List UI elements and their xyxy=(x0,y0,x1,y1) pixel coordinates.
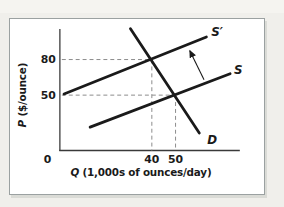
demand-curve-label: D xyxy=(207,133,217,147)
y-tick-50: 50 xyxy=(41,89,57,102)
page-top-strip xyxy=(0,0,284,13)
x-axis-label: Q (1,000s of ounces/day) xyxy=(70,166,211,178)
x-tick-40: 40 xyxy=(144,153,160,166)
origin-tick: 0 xyxy=(44,153,52,166)
y-tick-80: 80 xyxy=(41,53,57,66)
curve-supply xyxy=(90,74,230,127)
shifted-supply-curve-label: S′ xyxy=(211,25,224,39)
page-background: 80 50 0 40 50 Q (1,000s of ounces/day) P… xyxy=(0,0,284,207)
supply-curve-label: S xyxy=(234,63,243,77)
supply-demand-chart: 80 50 0 40 50 Q (1,000s of ounces/day) P… xyxy=(10,19,264,194)
y-axis-label: P ($/ounce) xyxy=(16,63,28,128)
figure-panel: 80 50 0 40 50 Q (1,000s of ounces/day) P… xyxy=(9,18,265,195)
supply-shift-arrow xyxy=(190,51,204,80)
x-tick-50: 50 xyxy=(168,153,184,166)
curve-supply-shifted xyxy=(64,37,206,94)
